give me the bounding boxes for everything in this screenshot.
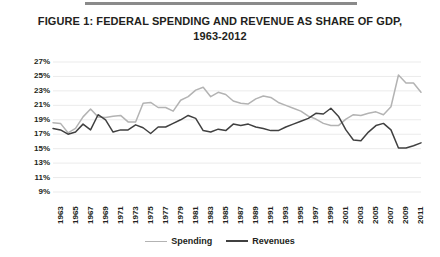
x-axis-tick-label: 1999	[327, 206, 335, 224]
x-axis-tick-label: 1989	[252, 206, 260, 224]
x-axis-tick-label: 2009	[402, 206, 410, 224]
x-axis-tick-label: 1963	[57, 206, 65, 224]
plot-area	[53, 62, 421, 192]
x-axis-tick-label: 1971	[117, 206, 125, 224]
x-axis-tick-label: 1977	[162, 206, 170, 224]
legend-line-swatch	[226, 240, 248, 242]
x-axis-tick-label: 2001	[342, 206, 350, 224]
y-axis-tick-label: 15%	[12, 145, 50, 153]
legend-label: Revenues	[252, 236, 295, 246]
x-axis-tick-label: 2011	[417, 207, 425, 224]
legend-entry-spending[interactable]: Spending	[145, 236, 212, 246]
figure-container: FIGURE 1: FEDERAL SPENDING AND REVENUE A…	[0, 0, 440, 257]
data-series	[53, 62, 421, 192]
y-axis-tick-label: 17%	[12, 130, 50, 138]
top-rule-divider	[85, 2, 357, 5]
x-axis-tick-label: 1967	[87, 206, 95, 224]
y-axis-tick-label: 9%	[12, 188, 50, 196]
x-axis-tick-label: 1969	[102, 206, 110, 224]
y-axis-tick-label: 23%	[12, 87, 50, 95]
chart-title: FIGURE 1: FEDERAL SPENDING AND REVENUE A…	[22, 14, 418, 44]
y-axis-tick-label: 11%	[12, 174, 50, 182]
x-axis-tick-label: 1985	[222, 206, 230, 224]
x-axis-tick-label: 1975	[147, 206, 155, 224]
y-axis-tick-label: 19%	[12, 116, 50, 124]
y-axis-tick-label: 25%	[12, 72, 50, 80]
legend-label: Spending	[171, 236, 212, 246]
y-axis-tick-label: 13%	[12, 159, 50, 167]
x-axis-tick-label: 1981	[192, 206, 200, 224]
x-axis-tick-label: 1987	[237, 206, 245, 224]
x-axis-tick-label: 1993	[282, 206, 290, 224]
y-axis-labels: 27%25%23%21%19%17%15%13%11%9%	[12, 55, 50, 200]
x-axis-labels: 1963196519671969197119731975197719791981…	[53, 194, 421, 228]
x-axis-tick-label: 1979	[177, 206, 185, 224]
y-axis-tick-label: 27%	[12, 58, 50, 66]
x-axis-tick-label: 2003	[357, 206, 365, 224]
x-axis-tick-label: 2007	[387, 206, 395, 224]
x-axis-tick-label: 2005	[372, 206, 380, 224]
x-axis-tick-label: 1991	[267, 206, 275, 224]
chart-legend: SpendingRevenues	[0, 236, 440, 246]
x-axis-tick-label: 1965	[72, 206, 80, 224]
legend-entry-revenues[interactable]: Revenues	[226, 236, 295, 246]
x-axis-tick-label: 1995	[297, 206, 305, 224]
y-axis-tick-label: 21%	[12, 101, 50, 109]
x-axis-tick-label: 1997	[312, 206, 320, 224]
legend-line-swatch	[145, 241, 167, 242]
x-axis-tick-label: 1973	[132, 206, 140, 224]
x-axis-tick-label: 1983	[207, 206, 215, 224]
